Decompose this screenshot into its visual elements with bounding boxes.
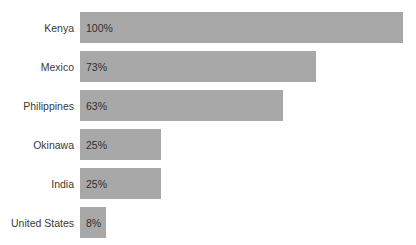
bar-value-label: 100%: [86, 12, 113, 43]
bar-row: United States8%: [0, 207, 416, 238]
bar-value-label: 73%: [86, 51, 107, 82]
bar-category-label: Mexico: [0, 51, 78, 82]
bar: [80, 51, 316, 82]
bar-value-label: 25%: [86, 129, 107, 160]
bar-category-label: Philippines: [0, 90, 78, 121]
bar-category-label: Kenya: [0, 12, 78, 43]
bar-value-label: 8%: [86, 207, 101, 238]
bar-row: India25%: [0, 168, 416, 199]
bar-category-label: United States: [0, 207, 78, 238]
bar-row: Philippines63%: [0, 90, 416, 121]
bar: [80, 90, 283, 121]
bar-row: Mexico73%: [0, 51, 416, 82]
bar: [80, 12, 403, 43]
chart-plot-area: Kenya100%Mexico73%Philippines63%Okinawa2…: [0, 12, 416, 238]
bar-category-label: India: [0, 168, 78, 199]
bar-chart: Kenya100%Mexico73%Philippines63%Okinawa2…: [0, 0, 416, 245]
bar-category-label: Okinawa: [0, 129, 78, 160]
bar-value-label: 63%: [86, 90, 107, 121]
bar-row: Okinawa25%: [0, 129, 416, 160]
clipped-header-artifact: [356, 0, 396, 5]
bar-value-label: 25%: [86, 168, 107, 199]
bar-row: Kenya100%: [0, 12, 416, 43]
